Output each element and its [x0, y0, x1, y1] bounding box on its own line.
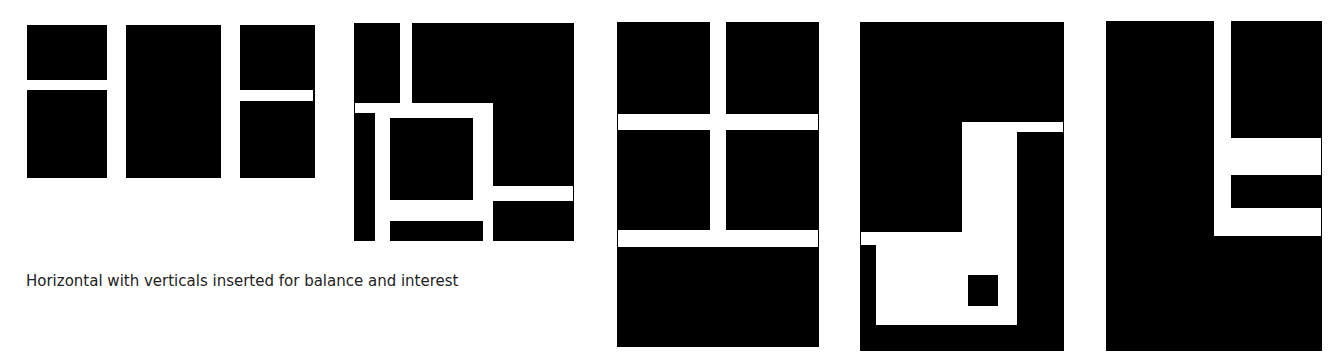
- figure-4: [860, 22, 1064, 351]
- caption: Horizontal with verticals inserted for b…: [26, 272, 459, 290]
- figure-2: [354, 23, 574, 241]
- small-square: [968, 275, 998, 306]
- vertical-bar: [107, 25, 126, 178]
- horizontal-bar: [1214, 208, 1321, 236]
- horizontal-bar: [618, 114, 818, 130]
- figure-1: [27, 25, 315, 178]
- horizontal-bar: [493, 186, 573, 201]
- vertical-bar: [400, 23, 412, 108]
- horizontal-bar: [27, 80, 107, 90]
- vertical-bar: [221, 25, 240, 178]
- inner-square: [390, 118, 473, 200]
- horizontal-bar: [355, 103, 493, 113]
- figure-5: [1106, 21, 1322, 351]
- figure-3: [617, 22, 819, 347]
- vertical-bar: [1214, 21, 1231, 236]
- horizontal-bar: [240, 90, 313, 101]
- horizontal-bar: [618, 230, 818, 247]
- horizontal-bar: [1214, 138, 1321, 175]
- bottom-block: [390, 221, 483, 241]
